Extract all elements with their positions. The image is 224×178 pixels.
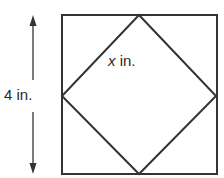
- arrow-down-icon: [30, 163, 37, 174]
- geometry-figure: 4 in. x in.: [0, 0, 224, 178]
- variable-x: x: [108, 52, 116, 69]
- unit-label: in.: [116, 52, 136, 69]
- outer-side-length-label: 4 in.: [4, 87, 32, 102]
- arrow-up-icon: [30, 15, 37, 26]
- inner-side-length-label: x in.: [108, 53, 136, 68]
- figure-canvas: [0, 0, 224, 178]
- inner-square: [62, 15, 216, 174]
- outer-square: [62, 15, 217, 174]
